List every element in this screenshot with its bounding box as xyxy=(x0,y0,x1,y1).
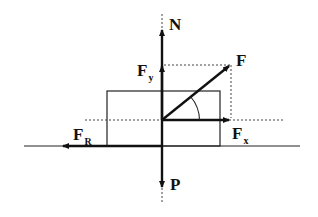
force-diagram xyxy=(0,0,318,217)
label-fr: FR xyxy=(73,126,92,143)
label-f: F xyxy=(236,52,246,69)
label-n: N xyxy=(169,16,181,33)
applied-force-arrow xyxy=(162,66,229,120)
angle-arc xyxy=(191,97,200,121)
label-fy: Fy xyxy=(137,62,153,79)
label-fx: Fx xyxy=(232,125,248,142)
label-p: P xyxy=(170,176,180,193)
